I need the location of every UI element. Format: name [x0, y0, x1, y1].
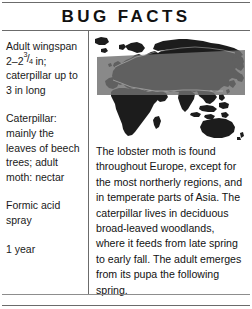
- specs-column: Adult wingspan 2–23/4 in; caterpillar up…: [0, 31, 88, 295]
- fraction-denominator: 4: [29, 58, 33, 65]
- card-header: BUG FACTS: [0, 3, 252, 30]
- spec-lifespan: 1 year: [6, 242, 82, 257]
- spec-diet: Caterpillar: mainly the leaves of beech …: [6, 111, 82, 184]
- fraction-three-quarters: 3/4: [24, 54, 33, 65]
- description-text: The lobster moth is found throughout Eur…: [96, 144, 246, 298]
- page-title: BUG FACTS: [62, 7, 191, 27]
- world-map-svg: [95, 33, 247, 141]
- spec-wingspan-range: 2–2: [6, 55, 24, 67]
- bug-facts-card: BUG FACTS Adult wingspan 2–23/4 in; cate…: [0, 0, 252, 309]
- bottom-inner-rule: [2, 294, 250, 295]
- spec-wingspan-tail: caterpillar up to 3 in long: [6, 69, 78, 96]
- spec-wingspan-label: Adult wingspan: [6, 40, 77, 52]
- world-map-icon: [89, 31, 252, 143]
- spec-wingspan: Adult wingspan 2–23/4 in; caterpillar up…: [6, 39, 82, 97]
- card-bottom-border: [2, 305, 250, 306]
- spec-defense: Formic acid spray: [6, 198, 82, 227]
- spec-wingspan-unit: in;: [33, 55, 47, 67]
- content-column: The lobster moth is found throughout Eur…: [89, 31, 250, 295]
